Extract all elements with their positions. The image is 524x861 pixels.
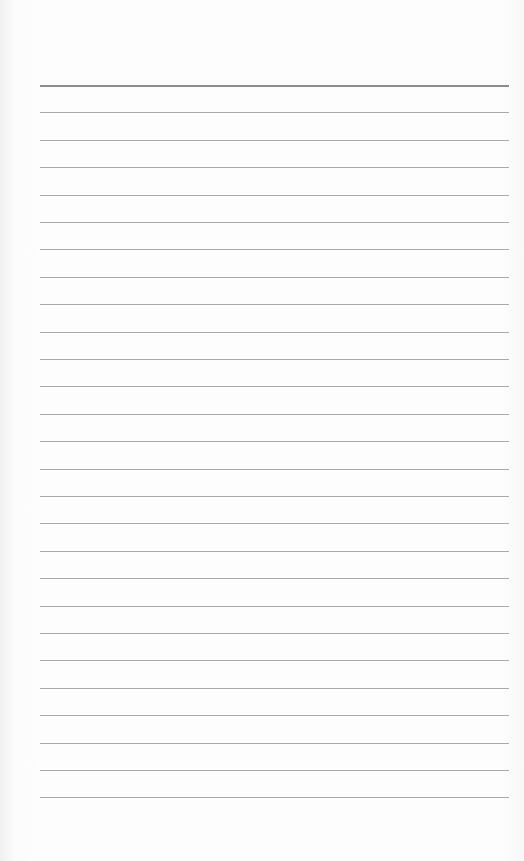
rule-line <box>40 441 509 442</box>
lined-paper-sheet <box>0 0 524 861</box>
rule-line <box>40 578 509 579</box>
rule-line <box>40 469 509 470</box>
rule-line <box>40 386 509 387</box>
rule-line <box>40 797 509 798</box>
rule-line <box>40 332 509 333</box>
rule-line <box>40 688 509 689</box>
rule-line <box>40 770 509 771</box>
rule-line <box>40 633 509 634</box>
rule-line <box>40 496 509 497</box>
rule-line <box>40 249 509 250</box>
rule-line <box>40 606 509 607</box>
rule-line <box>40 195 509 196</box>
rule-line <box>40 715 509 716</box>
rule-line <box>40 222 509 223</box>
rule-line <box>40 112 509 113</box>
rule-line <box>40 743 509 744</box>
rule-line <box>40 140 509 141</box>
rule-line <box>40 359 509 360</box>
rule-line <box>40 660 509 661</box>
header-rule-line <box>40 85 509 87</box>
rule-line <box>40 523 509 524</box>
rule-line <box>40 551 509 552</box>
rule-line <box>40 167 509 168</box>
rule-line <box>40 277 509 278</box>
rule-line <box>40 414 509 415</box>
rule-line <box>40 304 509 305</box>
